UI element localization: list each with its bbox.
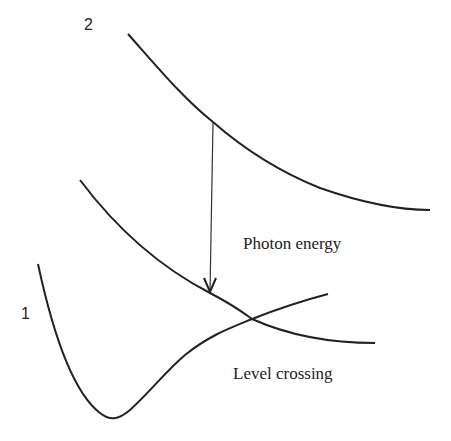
level-crossing-label: Level crossing — [233, 364, 333, 384]
upper-state-curve — [128, 34, 430, 210]
photon-energy-label: Photon energy — [243, 234, 341, 254]
photon-transition-arrow-shaft — [210, 123, 213, 292]
repulsive-state-curve — [80, 180, 375, 343]
lower-state-label: 1 — [21, 305, 30, 323]
potential-energy-diagram — [0, 0, 451, 441]
bound-state-curve — [38, 264, 328, 418]
upper-state-label: 2 — [84, 16, 93, 34]
